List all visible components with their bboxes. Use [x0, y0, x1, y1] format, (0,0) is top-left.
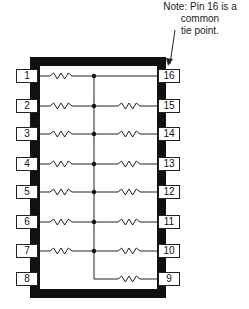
pin-7: 7 — [16, 244, 38, 258]
pin-11: 11 — [158, 215, 180, 229]
pin-13: 13 — [158, 157, 180, 171]
pin-10: 10 — [158, 244, 180, 258]
pin-6: 6 — [16, 215, 38, 229]
note-arrow-head — [166, 58, 173, 66]
pin-12: 12 — [158, 185, 180, 199]
pin-14: 14 — [158, 127, 180, 141]
pin-16: 16 — [158, 69, 180, 83]
pin-3: 3 — [16, 127, 38, 141]
pin-15: 15 — [158, 99, 180, 113]
pin-2: 2 — [16, 99, 38, 113]
pin-1: 1 — [16, 69, 38, 83]
pin-4: 4 — [16, 157, 38, 171]
resistor-network-diagram — [0, 0, 249, 309]
package-body-interior — [40, 66, 157, 289]
pin-5: 5 — [16, 185, 38, 199]
pin-9: 9 — [158, 272, 180, 286]
pin-8: 8 — [16, 272, 38, 286]
